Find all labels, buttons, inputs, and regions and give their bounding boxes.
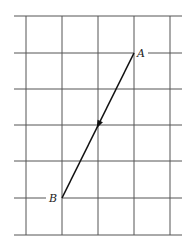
- vector-grid-diagram: A B: [0, 0, 192, 252]
- point-label-a: A: [136, 47, 145, 60]
- arrowhead-icon: [97, 120, 103, 128]
- point-label-b: B: [48, 192, 57, 205]
